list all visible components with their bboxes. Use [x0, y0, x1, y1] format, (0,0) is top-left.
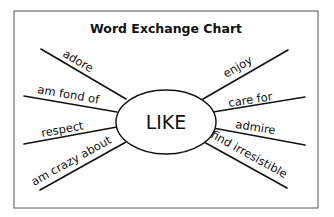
chart-title: Word Exchange Chart — [90, 21, 242, 36]
center-word: LIKE — [146, 111, 187, 133]
word-exchange-chart: Word Exchange Chart LIKE adore am fond o… — [0, 0, 334, 217]
